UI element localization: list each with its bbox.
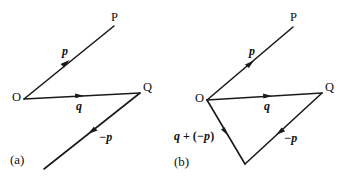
panel-a-point-label-P: P	[111, 11, 118, 24]
panel-b-vector-label-p: p	[249, 45, 255, 57]
panel-b-vector-q-arrowhead	[263, 94, 272, 99]
panel-a-vector-label-p: p	[62, 45, 68, 57]
panel-b-point-label-Q: Q	[325, 81, 334, 94]
diagram-canvas	[0, 0, 353, 180]
panel-b-vector-sum-arrowhead	[221, 127, 229, 136]
panel-a-point-label-Q: Q	[143, 81, 152, 94]
panel-a-vector-q-arrowhead	[75, 93, 84, 98]
sum-label-close-paren: )	[210, 129, 214, 143]
panel-a-point-label-O: O	[12, 91, 21, 104]
panel-b-vector-minus-p-line	[245, 93, 322, 164]
panel-b-vector-label-sum: q + (−p)	[174, 130, 214, 142]
panel-b-point-label-O: O	[195, 92, 204, 105]
vector-diagram-figure: P O Q p q −p (a) P O Q p q −p q + (−p) (…	[0, 0, 353, 180]
panel-a-vector-label-q: q	[76, 100, 82, 112]
panel-b-graphics	[207, 27, 322, 164]
panel-a-caption: (a)	[10, 153, 24, 166]
panel-a-vector-p-line	[24, 26, 114, 99]
panel-a-vector-label-minus-p: −p	[99, 131, 112, 143]
panel-b-vector-label-minus-p: −p	[284, 132, 297, 144]
panel-b-vector-label-q: q	[264, 100, 270, 112]
panel-b-point-label-P: P	[290, 11, 297, 24]
sum-label-operator: + (	[180, 129, 197, 143]
panel-a-graphics	[24, 26, 140, 169]
panel-b-caption: (b)	[174, 155, 189, 168]
sum-label-minus-p: −p	[197, 129, 210, 143]
